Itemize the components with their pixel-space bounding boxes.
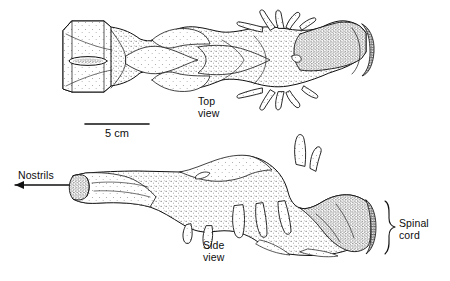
top-view-label: Top view (198, 95, 219, 119)
side-view-dorsal-spike (295, 135, 306, 166)
side-view-label: Side view (203, 239, 224, 263)
nostrils-label: Nostrils (18, 169, 54, 181)
skull-illustration-svg (0, 0, 450, 281)
side-view-snout-cut (69, 175, 89, 200)
top-view-nostril-shadow (73, 59, 103, 64)
nostrils-arrowhead (15, 181, 24, 189)
side-view-dorsal-spike-2 (310, 147, 321, 171)
spinal-cord-label: Spinal cord (399, 217, 429, 241)
scale-bar-label: 5 cm (85, 127, 149, 139)
top-view-lower-processes (237, 86, 318, 110)
spinal-cord-brace (385, 201, 395, 254)
skull-figure: Top view Side view Nostrils Spinal cord … (0, 0, 450, 281)
nostrils-arrow (15, 181, 72, 189)
top-view-occiput (294, 22, 366, 71)
